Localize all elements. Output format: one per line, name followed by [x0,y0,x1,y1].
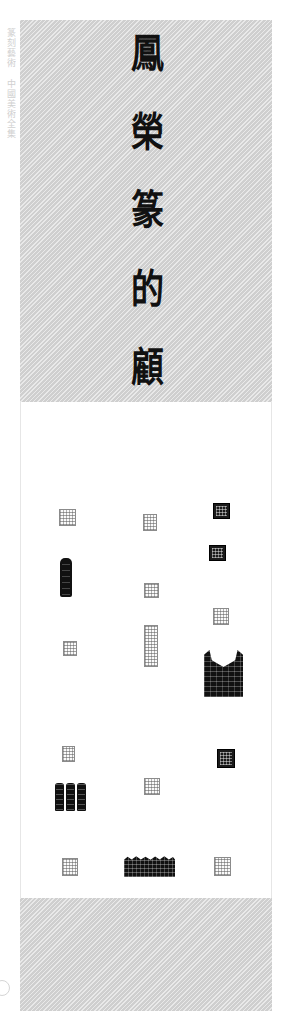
seal-impression [143,514,155,529]
seal-impression [226,544,240,560]
seal-impression [144,625,156,665]
seal-impression [144,583,157,596]
seal-impression [209,545,224,559]
seal-ink [213,608,229,625]
seal-impression [143,815,158,830]
seal-ink [60,558,72,597]
seal-impression [214,857,229,874]
seal-ink [124,855,175,877]
seal-impression [213,503,228,517]
seal-impression [60,558,72,597]
seal-ink [219,790,234,807]
seal-ink [55,783,86,811]
seal-ink [214,857,231,876]
seal-ink [143,815,158,830]
title-glyph-4: 的 [121,256,173,319]
plate-bottom-gray-band [20,898,272,1011]
scanned-page: 篆刻藝術 中國美術全集 鳳 榮 篆 的 顧 [0,0,286,1011]
seal-script-title-column: 鳳 榮 篆 的 顧 [112,26,182,392]
seal-impression [59,509,74,524]
seal-column [77,783,86,811]
plate-right-rule [271,402,272,898]
seal-ink [59,509,76,526]
seal-impression [140,713,155,728]
seal-column [55,783,64,811]
seal-impression [63,641,75,654]
seal-ink [209,545,226,561]
seal-impression [213,608,227,623]
title-glyph-1: 鳳 [121,20,173,83]
seal-ink [62,858,78,876]
seal-ink [144,583,159,598]
page-corner-mark [0,980,10,996]
seal-impression [204,650,243,697]
seal-impression [62,746,73,760]
seal-impression [219,790,234,807]
seal-impression [124,855,175,877]
seal-impression [144,778,158,793]
seal-impression [217,749,233,766]
seal-ink [144,778,160,795]
margin-note: 篆刻藝術 中國美術全集 [1,28,17,248]
seal-column [66,783,75,811]
seal-ink [217,749,235,768]
seal-impression [55,783,86,811]
seal-ink [204,650,243,697]
title-glyph-2: 榮 [121,99,173,162]
title-glyph-3: 篆 [121,177,173,240]
seal-impression [62,858,76,874]
seal-ink [143,514,157,531]
seal-ink [213,503,230,519]
plate-left-rule [20,402,21,898]
seal-ink [144,625,158,667]
title-glyph-5: 顧 [121,334,173,397]
seal-ink [226,544,240,560]
seal-ink [62,746,75,762]
seal-ink [63,641,77,656]
seal-ink [140,713,155,728]
